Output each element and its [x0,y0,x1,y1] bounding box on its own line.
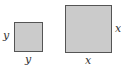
large-square-bottom-label: x [85,55,91,66]
small-square-left-label: y [3,30,9,41]
large-square-right-label: x [115,23,121,34]
small-square-bottom-label: y [25,54,31,65]
small-square [14,22,43,52]
large-square [65,5,112,53]
